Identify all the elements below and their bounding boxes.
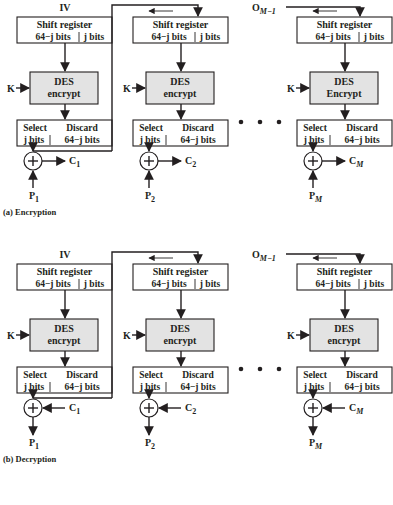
- discard-bits: 64−j bits: [180, 382, 216, 392]
- discard-label: Discard: [346, 123, 378, 133]
- des-mode: encrypt: [164, 88, 197, 99]
- select-bits: j bits: [303, 135, 325, 145]
- shift-register-left-bits: 64−j bits: [315, 279, 351, 289]
- iv-label: IV: [59, 2, 71, 13]
- plaintext-label: PM: [309, 190, 323, 204]
- des-mode: Encrypt: [327, 88, 363, 99]
- plaintext-label: PM: [309, 437, 323, 451]
- plaintext-label: P1: [29, 190, 39, 204]
- discard-label: Discard: [182, 370, 214, 380]
- shift-register-right-bits: j bits: [199, 32, 221, 42]
- shift-register-right-bits: j bits: [363, 32, 385, 42]
- shift-register-right-bits: j bits: [83, 279, 105, 289]
- key-label: K: [123, 330, 131, 341]
- discard-bits: 64−j bits: [180, 135, 216, 145]
- shift-register-title: Shift register: [317, 19, 373, 30]
- select-label: Select: [23, 370, 48, 380]
- o-m-minus-1-label: OM−1: [252, 249, 276, 263]
- select-bits: j bits: [139, 382, 161, 392]
- des-title: DES: [170, 76, 190, 87]
- ellipsis-dot: [258, 120, 263, 125]
- select-bits: j bits: [303, 382, 325, 392]
- shift-register-left-bits: 64−j bits: [151, 279, 187, 289]
- key-label: K: [123, 83, 131, 94]
- select-label: Select: [139, 123, 164, 133]
- shift-register-left-bits: 64−j bits: [35, 32, 71, 42]
- des-title: DES: [334, 76, 354, 87]
- shift-register-left-bits: 64−j bits: [35, 279, 71, 289]
- ciphertext-label: CM: [349, 155, 364, 169]
- discard-bits: 64−j bits: [64, 382, 100, 392]
- discard-bits: 64−j bits: [344, 135, 380, 145]
- ciphertext-label: C1: [69, 155, 80, 169]
- select-label: Select: [23, 123, 48, 133]
- discard-bits: 64−j bits: [344, 382, 380, 392]
- shift-register-title: Shift register: [37, 266, 93, 277]
- discard-label: Discard: [346, 370, 378, 380]
- des-mode: encrypt: [48, 88, 81, 99]
- key-label: K: [7, 330, 15, 341]
- des-mode: encrypt: [328, 335, 361, 346]
- ciphertext-label: CM: [349, 402, 364, 416]
- ciphertext-label: C1: [69, 402, 80, 416]
- des-title: DES: [170, 323, 190, 334]
- plaintext-label: P2: [145, 437, 155, 451]
- ellipsis-dot: [258, 367, 263, 372]
- ciphertext-label: C2: [185, 155, 196, 169]
- select-bits: j bits: [23, 382, 45, 392]
- iv-label: IV: [59, 249, 71, 260]
- key-label: K: [287, 83, 295, 94]
- last-feedback-line: [286, 254, 360, 263]
- plaintext-label: P1: [29, 437, 39, 451]
- shift-register-title: Shift register: [37, 19, 93, 30]
- select-label: Select: [139, 370, 164, 380]
- ellipsis-dot: [277, 120, 282, 125]
- shift-register-right-bits: j bits: [363, 279, 385, 289]
- discard-label: Discard: [182, 123, 214, 133]
- ellipsis-dot: [277, 367, 282, 372]
- des-title: DES: [334, 323, 354, 334]
- shift-register-right-bits: j bits: [199, 279, 221, 289]
- select-bits: j bits: [23, 135, 45, 145]
- plaintext-label: P2: [145, 190, 155, 204]
- des-title: DES: [54, 76, 74, 87]
- ellipsis-dot: [239, 120, 244, 125]
- select-label: Select: [303, 370, 328, 380]
- select-label: Select: [303, 123, 328, 133]
- discard-bits: 64−j bits: [64, 135, 100, 145]
- shift-register-right-bits: j bits: [83, 32, 105, 42]
- shift-register-left-bits: 64−j bits: [151, 32, 187, 42]
- key-label: K: [287, 330, 295, 341]
- shift-register-title: Shift register: [153, 19, 209, 30]
- encryption-panel: Shift register64−j bitsj bitsDESencryptK…: [3, 2, 392, 217]
- shift-register-left-bits: 64−j bits: [315, 32, 351, 42]
- ciphertext-label: C2: [185, 402, 196, 416]
- ellipsis-dot: [239, 367, 244, 372]
- encryption-caption: (a) Encryption: [3, 207, 56, 217]
- decryption-caption: (b) Decryption: [3, 454, 56, 464]
- last-feedback-line: [286, 7, 360, 16]
- shift-register-title: Shift register: [153, 266, 209, 277]
- des-mode: encrypt: [48, 335, 81, 346]
- discard-label: Discard: [66, 123, 98, 133]
- shift-register-title: Shift register: [317, 266, 373, 277]
- des-mode: encrypt: [164, 335, 197, 346]
- decryption-panel: Shift register64−j bitsj bitsDESencryptK…: [3, 249, 392, 464]
- des-title: DES: [54, 323, 74, 334]
- discard-label: Discard: [66, 370, 98, 380]
- o-m-minus-1-label: OM−1: [252, 2, 276, 16]
- cfb-mode-diagram: Shift register64−j bitsj bitsDESencryptK…: [0, 0, 393, 505]
- key-label: K: [7, 83, 15, 94]
- select-bits: j bits: [139, 135, 161, 145]
